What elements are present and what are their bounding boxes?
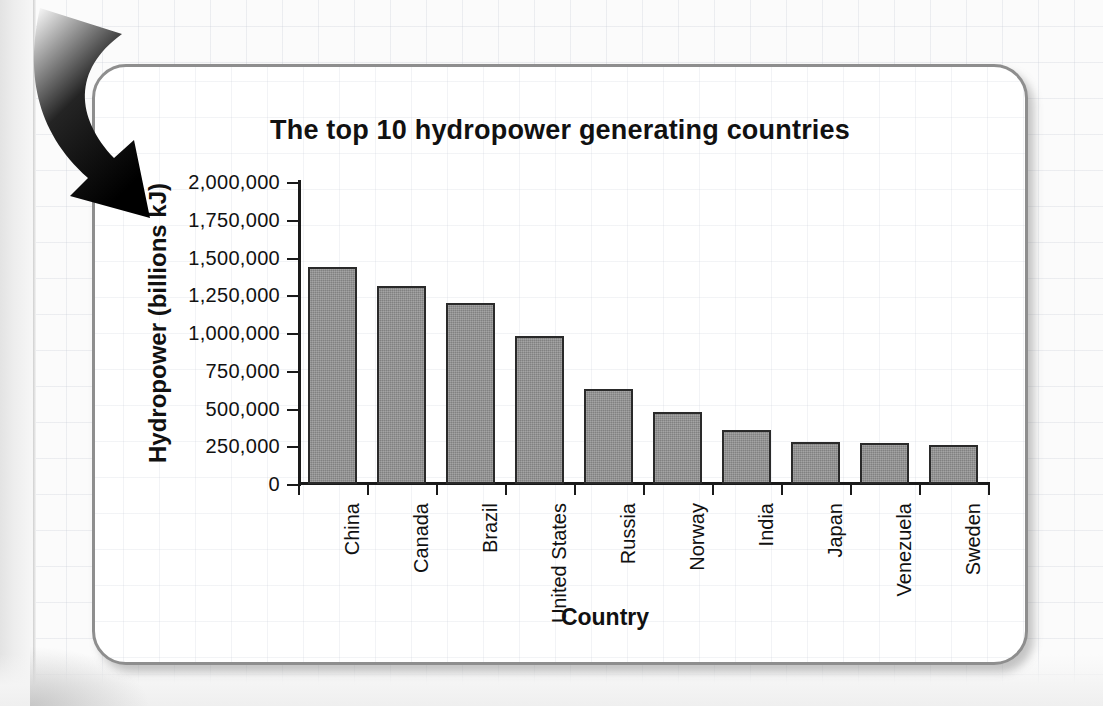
y-axis-tick	[287, 258, 298, 260]
x-axis-tick	[298, 484, 300, 495]
x-axis-category-label: India	[755, 503, 778, 546]
y-axis-tick-label: 1,500,000	[188, 246, 280, 269]
chart-panel: The top 10 hydropower generating countri…	[92, 64, 1028, 665]
x-axis-category-label: Norway	[686, 503, 709, 571]
bar	[722, 430, 770, 484]
x-axis-tick	[505, 484, 507, 495]
y-axis-tick-label: 500,000	[206, 397, 280, 420]
x-axis-tick	[643, 484, 645, 495]
x-axis-tick	[436, 484, 438, 495]
bar	[860, 443, 908, 484]
x-axis-tick	[781, 484, 783, 495]
plot-area: 0250,000500,000750,0001,000,0001,250,000…	[298, 182, 988, 484]
bar	[515, 336, 563, 484]
x-axis-category-label: Japan	[824, 503, 847, 558]
y-axis-tick-label: 2,000,000	[188, 171, 280, 194]
y-axis-tick	[287, 295, 298, 297]
x-axis-category-label: Venezuela	[893, 503, 916, 596]
bar	[377, 286, 425, 484]
y-axis-tick	[287, 484, 298, 486]
y-axis-tick-label: 0	[269, 473, 280, 496]
x-axis-tick	[574, 484, 576, 495]
x-axis-tick	[712, 484, 714, 495]
page-left-margin-strip	[0, 0, 34, 706]
y-axis-tick-label: 1,000,000	[188, 322, 280, 345]
y-axis-tick-label: 1,250,000	[188, 284, 280, 307]
y-axis-tick	[287, 371, 298, 373]
y-axis-tick	[287, 333, 298, 335]
x-axis-category-label: Brazil	[479, 503, 502, 553]
x-axis-tick	[367, 484, 369, 495]
x-axis-category-label: United States	[548, 503, 571, 623]
y-axis-tick-label: 1,750,000	[188, 208, 280, 231]
x-axis-category-label: Sweden	[962, 503, 985, 575]
y-axis-tick	[287, 446, 298, 448]
x-axis-title: Country	[475, 604, 735, 631]
bar	[446, 303, 494, 484]
x-axis-category-label: Canada	[410, 503, 433, 573]
chart-title: The top 10 hydropower generating countri…	[95, 115, 1025, 146]
x-axis-tick	[919, 484, 921, 495]
x-axis-category-label: China	[341, 503, 364, 555]
y-axis-title: Hydropower (billions kJ)	[144, 163, 172, 483]
bar	[584, 389, 632, 484]
y-axis-tick	[287, 409, 298, 411]
bar	[791, 442, 839, 484]
bar	[929, 445, 977, 484]
y-axis-tick-label: 750,000	[206, 359, 280, 382]
x-axis-tick	[850, 484, 852, 495]
y-axis-tick	[287, 220, 298, 222]
y-axis-tick	[287, 182, 298, 184]
page-left-edge-shadow	[33, 0, 36, 706]
bar	[308, 267, 356, 484]
y-axis-tick-label: 250,000	[206, 435, 280, 458]
bar	[653, 412, 701, 484]
x-axis-tick	[988, 484, 990, 495]
x-axis-category-label: Russia	[617, 503, 640, 564]
